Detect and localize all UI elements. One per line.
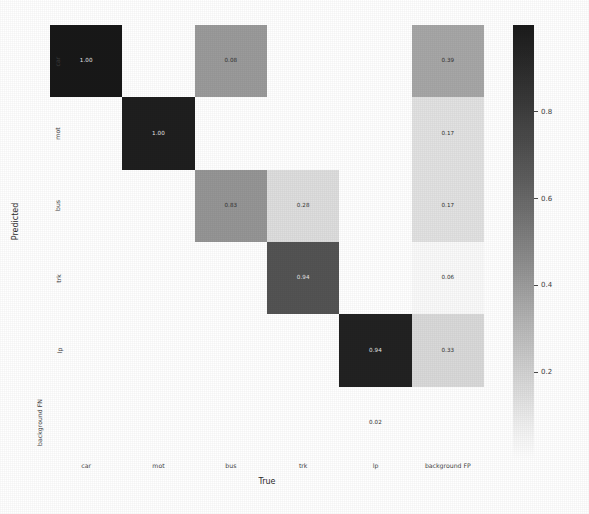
matrix-cell-value: 0.08 (224, 58, 237, 64)
y-tick-car: car (16, 25, 63, 97)
matrix-cell: 0.06 (412, 242, 484, 314)
matrix-cell (122, 242, 194, 314)
colorbar-gradient (513, 25, 534, 459)
matrix-cell (339, 170, 411, 242)
y-tick-label-text: mot (53, 127, 60, 139)
matrix-cell-value: 0.17 (441, 131, 454, 137)
colorbar-tick-mark (534, 285, 538, 286)
matrix-cell: 0.02 (339, 387, 411, 459)
x-tick-lp: lp (339, 462, 411, 476)
matrix-cell: 0.39 (412, 25, 484, 97)
colorbar: 0.20.40.60.8 (513, 25, 534, 459)
y-axis-title: Predicted (11, 142, 20, 302)
matrix-cell (122, 387, 194, 459)
matrix-cell-value: 0.28 (297, 203, 310, 209)
matrix-cell (267, 314, 339, 386)
matrix-cell-value: 1.00 (152, 131, 165, 137)
matrix-cell: 0.08 (195, 25, 267, 97)
matrix-cell (267, 25, 339, 97)
x-axis-tick-labels: carmotbustrklpbackground FP (50, 462, 484, 476)
matrix-cell-value: 0.39 (441, 58, 454, 64)
matrix-cell (267, 387, 339, 459)
matrix-cell (122, 170, 194, 242)
matrix-cell (195, 242, 267, 314)
y-tick-bus: bus (16, 170, 63, 242)
y-tick-label-text: lp (56, 348, 63, 354)
matrix-cell: 1.00 (122, 97, 194, 169)
y-tick-label-text: bus (54, 200, 61, 211)
colorbar-tick-mark (534, 372, 538, 373)
matrix-cell (412, 387, 484, 459)
matrix-cell (339, 97, 411, 169)
colorbar-tick-label: 0.2 (541, 368, 552, 376)
matrix-cell (267, 97, 339, 169)
colorbar-tick-mark (534, 111, 538, 112)
matrix-cell: 0.94 (339, 314, 411, 386)
matrix-cell-value: 1.00 (80, 58, 93, 64)
confusion-matrix-grid: 1.000.080.391.000.170.830.280.170.940.06… (50, 25, 484, 459)
confusion-matrix-figure: 1.000.080.391.000.170.830.280.170.940.06… (0, 0, 589, 514)
heatmap-plot-area: 1.000.080.391.000.170.830.280.170.940.06… (50, 25, 484, 459)
matrix-cell: 0.17 (412, 97, 484, 169)
matrix-cell-value: 0.06 (441, 275, 454, 281)
matrix-cell (122, 25, 194, 97)
y-tick-lp: lp (16, 314, 63, 386)
x-tick-car: car (50, 462, 122, 476)
x-tick-trk: trk (267, 462, 339, 476)
matrix-cell-value: 0.33 (441, 348, 454, 354)
y-tick-label-text: background FN (36, 399, 43, 446)
matrix-cell: 0.94 (267, 242, 339, 314)
y-tick-trk: trk (16, 242, 63, 314)
matrix-cell-value: 0.17 (441, 203, 454, 209)
colorbar-tick-label: 0.4 (541, 281, 552, 289)
x-tick-mot: mot (122, 462, 194, 476)
matrix-cell (195, 97, 267, 169)
matrix-cell: 0.28 (267, 170, 339, 242)
matrix-cell-value: 0.83 (224, 203, 237, 209)
matrix-cell-value: 0.94 (369, 348, 382, 354)
matrix-cell (195, 387, 267, 459)
x-axis-title: True (50, 477, 484, 486)
x-tick-background-fp: background FP (412, 462, 484, 476)
x-tick-bus: bus (195, 462, 267, 476)
matrix-cell (195, 314, 267, 386)
colorbar-tick-mark (534, 198, 538, 199)
y-tick-label-text: trk (55, 274, 62, 283)
y-tick-mot: mot (16, 97, 63, 169)
y-axis-tick-labels: carmotbustrklpbackground FN (16, 25, 46, 459)
y-tick-label-text: car (54, 56, 61, 66)
matrix-cell: 0.33 (412, 314, 484, 386)
matrix-cell (339, 242, 411, 314)
colorbar-tick-label: 0.8 (541, 107, 552, 115)
matrix-cell-value: 0.02 (369, 420, 382, 426)
matrix-cell (339, 25, 411, 97)
matrix-cell (122, 314, 194, 386)
y-tick-background-fn: background FN (16, 387, 63, 459)
matrix-cell-value: 0.94 (297, 275, 310, 281)
colorbar-tick-label: 0.6 (541, 194, 552, 202)
matrix-cell: 0.17 (412, 170, 484, 242)
matrix-cell: 0.83 (195, 170, 267, 242)
